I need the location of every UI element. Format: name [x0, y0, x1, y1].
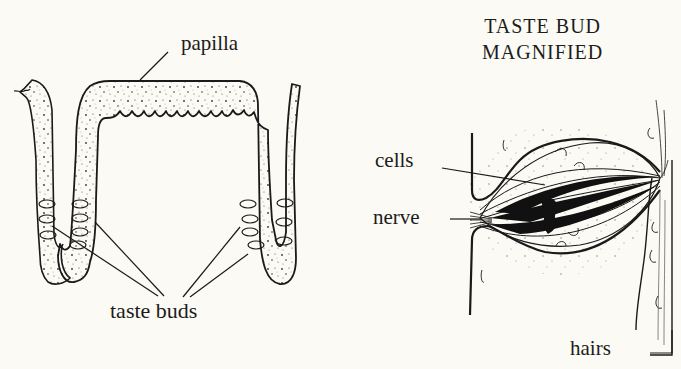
taste-buds-label: taste buds: [110, 300, 197, 322]
right-lower-strands: [658, 190, 665, 345]
hairs-label: hairs: [570, 338, 611, 359]
taste-bud-magnified-diagram: [442, 100, 672, 355]
right-hair-strands: [656, 100, 668, 178]
hairs-bracket: [650, 330, 672, 353]
papilla-diagram: [14, 52, 302, 297]
magnified-title: TASTE BUD MAGNIFIED: [482, 13, 603, 65]
cells-label: cells: [375, 150, 413, 171]
papilla-leader-line: [140, 52, 168, 80]
papilla-label: papilla: [181, 33, 238, 54]
magnified-title-line1: TASTE BUD: [482, 13, 603, 39]
nerve-label: nerve: [373, 207, 420, 228]
magnified-title-line2: MAGNIFIED: [482, 39, 603, 65]
